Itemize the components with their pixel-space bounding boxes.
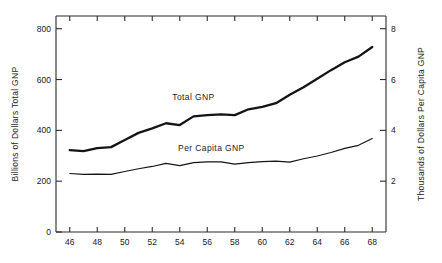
- x-tick-label-48: 48: [93, 237, 103, 247]
- y-tick-label-left-0: 0: [46, 227, 51, 237]
- series-line-total-gnp: [70, 47, 373, 151]
- tick-labels: 4648505254565860626466680200400600800246…: [37, 24, 396, 247]
- total-gnp-label: Total GNP: [172, 92, 214, 102]
- x-tick-label-46: 46: [65, 237, 75, 247]
- chart-figure: 4648505254565860626466680200400600800246…: [0, 0, 442, 263]
- y-tick-label-left-800: 800: [37, 24, 51, 34]
- x-tick-label-58: 58: [230, 237, 240, 247]
- x-tick-label-66: 66: [340, 237, 350, 247]
- y-tick-label-right-6: 6: [391, 75, 396, 85]
- y-tick-label-right-2: 2: [391, 176, 396, 186]
- x-tick-label-52: 52: [148, 237, 158, 247]
- x-tick-label-60: 60: [258, 237, 268, 247]
- x-tick-label-50: 50: [120, 237, 130, 247]
- chart-svg: 4648505254565860626466680200400600800246…: [0, 0, 442, 263]
- plot-frame: [56, 16, 386, 232]
- x-tick-label-64: 64: [313, 237, 323, 247]
- left-axis-title: Billions of Dollars Total GNP: [10, 67, 20, 182]
- x-tick-label-56: 56: [203, 237, 213, 247]
- y-tick-label-left-400: 400: [37, 125, 51, 135]
- data-series: [70, 47, 373, 174]
- y-tick-label-left-600: 600: [37, 75, 51, 85]
- x-tick-label-62: 62: [285, 237, 295, 247]
- y-tick-label-right-4: 4: [391, 125, 396, 135]
- x-tick-label-68: 68: [368, 237, 378, 247]
- y-tick-label-left-200: 200: [37, 176, 51, 186]
- x-tick-label-54: 54: [175, 237, 185, 247]
- y-tick-label-right-8: 8: [391, 24, 396, 34]
- per-capita-gnp-label: Per Capita GNP: [178, 143, 245, 153]
- tick-marks: [56, 16, 386, 232]
- right-axis-title: Thousands of Dollars Per Capita GNP: [416, 47, 426, 201]
